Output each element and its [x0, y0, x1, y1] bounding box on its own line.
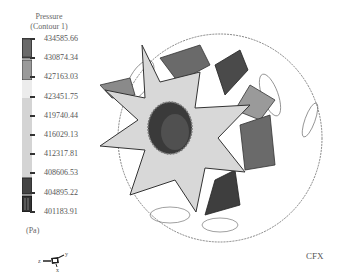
axis-x-label: x	[56, 267, 59, 272]
legend-label: 412317.81	[44, 149, 78, 158]
axis-y-label: y	[65, 251, 68, 257]
legend-tick	[30, 192, 35, 194]
legend-label: 427163.03	[44, 72, 78, 81]
legend-tick	[30, 115, 35, 117]
cfx-brand-label: CFX	[306, 251, 324, 261]
legend-tick	[30, 38, 35, 40]
impeller-pressure-contour	[100, 20, 342, 250]
legend-tick	[30, 172, 35, 174]
legend-label: 404895.22	[44, 188, 78, 197]
legend-label: 434585.66	[44, 34, 78, 43]
legend-label: 416029.13	[44, 130, 78, 139]
legend-label: 419740.44	[44, 111, 78, 120]
legend-tick	[30, 96, 35, 98]
legend-tick	[30, 211, 35, 213]
legend-label: 430874.34	[44, 53, 78, 62]
legend-tick	[30, 57, 35, 59]
legend-tick	[30, 76, 35, 78]
axis-triad-icon: z y x	[38, 250, 78, 272]
pressure-color-bar	[22, 38, 32, 212]
legend-label: 423451.75	[44, 92, 78, 101]
legend-label: 401183.91	[44, 207, 78, 216]
axis-z-label: z	[38, 258, 41, 264]
legend-title-line2: (Contour 1)	[28, 22, 70, 32]
legend-title-line1: Pressure	[28, 12, 70, 22]
unit-label: (Pa)	[26, 226, 39, 235]
legend-label: 408606.53	[44, 168, 78, 177]
legend-tick	[30, 153, 35, 155]
legend-title: Pressure (Contour 1)	[28, 12, 70, 32]
legend-tick	[30, 134, 35, 136]
